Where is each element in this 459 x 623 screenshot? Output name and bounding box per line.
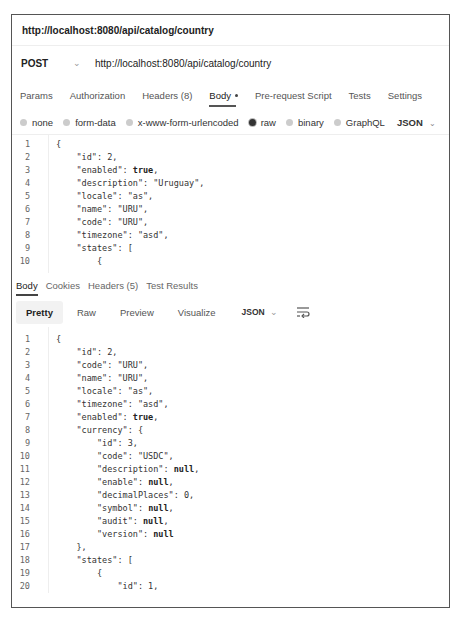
code-token: "code": "URU", bbox=[56, 360, 148, 370]
code-line: 2 "id": 2, bbox=[12, 346, 449, 359]
code-line: 9 "id": 3, bbox=[12, 437, 449, 450]
response-tab-test-results[interactable]: Test Results bbox=[146, 280, 198, 297]
code-text: "locale": "as", bbox=[40, 190, 153, 203]
tab-headers[interactable]: Headers (8) bbox=[142, 80, 192, 110]
body-format-select[interactable]: JSON⌄ bbox=[397, 117, 436, 128]
code-token: "name": "URU", bbox=[56, 373, 148, 383]
code-line: 7 "code": "URU", bbox=[12, 216, 449, 229]
line-number: 8 bbox=[12, 424, 40, 437]
code-token: "currency": { bbox=[56, 425, 143, 435]
code-text: "version": null bbox=[40, 528, 174, 541]
code-token: { bbox=[56, 256, 102, 266]
line-number: 20 bbox=[12, 580, 40, 593]
line-number: 13 bbox=[12, 489, 40, 502]
code-token: "description": bbox=[56, 464, 174, 474]
tab-authorization[interactable]: Authorization bbox=[70, 80, 125, 110]
radio-form-data[interactable]: form-data bbox=[63, 117, 116, 128]
method-select[interactable]: POST bbox=[21, 58, 73, 69]
line-number: 11 bbox=[12, 463, 40, 476]
code-line: 1{ bbox=[12, 138, 449, 151]
code-line: 9 "states": [ bbox=[12, 242, 449, 255]
tab-body[interactable]: Body bbox=[209, 80, 238, 110]
code-text: "code": "USDC", bbox=[40, 450, 174, 463]
code-line: 10 { bbox=[12, 255, 449, 268]
code-text: { bbox=[40, 567, 102, 580]
code-line: 8 "currency": { bbox=[12, 424, 449, 437]
view-visualize[interactable]: Visualize bbox=[168, 301, 226, 324]
code-line: 3 "code": "URU", bbox=[12, 359, 449, 372]
code-text: "id": 1, bbox=[40, 580, 158, 593]
code-token: "id": 2, bbox=[56, 347, 117, 357]
radio-graphql[interactable]: GraphQL bbox=[334, 117, 385, 128]
code-token: { bbox=[56, 139, 61, 149]
code-token: , bbox=[153, 412, 158, 422]
radio-selected-icon bbox=[249, 119, 256, 126]
tab-label: Headers (8) bbox=[142, 90, 192, 101]
radio-label: raw bbox=[261, 117, 276, 128]
radio-urlencoded[interactable]: x-www-form-urlencoded bbox=[126, 117, 239, 128]
view-preview[interactable]: Preview bbox=[110, 301, 164, 324]
chevron-down-icon[interactable]: ⌄ bbox=[73, 58, 95, 68]
radio-raw[interactable]: raw bbox=[249, 117, 276, 128]
code-line: 4 "description": "Uruguay", bbox=[12, 177, 449, 190]
code-text: "enable": null, bbox=[40, 476, 174, 489]
code-token: "states": [ bbox=[56, 243, 133, 253]
tab-tests[interactable]: Tests bbox=[349, 80, 371, 110]
code-line: 5 "locale": "as", bbox=[12, 190, 449, 203]
radio-none[interactable]: none bbox=[20, 117, 53, 128]
format-label: JSON bbox=[242, 307, 265, 317]
line-number: 12 bbox=[12, 476, 40, 489]
response-format-select[interactable]: JSON⌄ bbox=[234, 301, 286, 323]
code-line: 6 "name": "URU", bbox=[12, 203, 449, 216]
code-text: { bbox=[40, 138, 61, 151]
radio-label: binary bbox=[298, 117, 324, 128]
line-number: 3 bbox=[12, 359, 40, 372]
response-tab-headers[interactable]: Headers (5) bbox=[88, 280, 138, 297]
line-number: 2 bbox=[12, 151, 40, 164]
response-tab-cookies[interactable]: Cookies bbox=[46, 280, 80, 297]
tab-settings[interactable]: Settings bbox=[388, 80, 422, 110]
code-line: 10 "code": "USDC", bbox=[12, 450, 449, 463]
tab-params[interactable]: Params bbox=[20, 80, 53, 110]
code-token: "enabled": bbox=[56, 165, 133, 175]
code-token: "enabled": bbox=[56, 412, 133, 422]
code-line: 11 "description": null, bbox=[12, 463, 449, 476]
code-text: "timezone": "asd", bbox=[40, 229, 169, 242]
tab-label: Body bbox=[209, 90, 231, 101]
response-tab-body[interactable]: Body bbox=[16, 280, 38, 297]
line-number: 1 bbox=[12, 333, 40, 346]
line-number: 9 bbox=[12, 437, 40, 450]
code-token: "states": [ bbox=[56, 555, 133, 565]
line-number: 8 bbox=[12, 229, 40, 242]
code-line: 13 "decimalPlaces": 0, bbox=[12, 489, 449, 502]
code-token: "symbol": bbox=[56, 503, 148, 513]
wrap-lines-icon[interactable] bbox=[296, 306, 310, 318]
code-text: "code": "URU", bbox=[40, 359, 148, 372]
code-token: "timezone": "asd", bbox=[56, 399, 169, 409]
code-line: 1{ bbox=[12, 333, 449, 346]
code-token: { bbox=[56, 568, 102, 578]
line-number: 15 bbox=[12, 515, 40, 528]
request-body-editor[interactable]: 1{2 "id": 2,3 "enabled": true,4 "descrip… bbox=[12, 135, 449, 273]
code-text: "locale": "as", bbox=[40, 385, 153, 398]
view-raw[interactable]: Raw bbox=[67, 301, 106, 324]
tab-pre-request-script[interactable]: Pre-request Script bbox=[255, 80, 332, 110]
code-keyword: true bbox=[133, 412, 153, 422]
code-text: "currency": { bbox=[40, 424, 143, 437]
code-keyword: null bbox=[153, 529, 173, 539]
response-body-viewer[interactable]: 1{2 "id": 2,3 "code": "URU",4 "name": "U… bbox=[12, 327, 449, 593]
code-line: 15 "audit": null, bbox=[12, 515, 449, 528]
line-number: 5 bbox=[12, 385, 40, 398]
url-input[interactable]: http://localhost:8080/api/catalog/countr… bbox=[95, 58, 271, 69]
code-line: 18 "states": [ bbox=[12, 554, 449, 567]
code-token: { bbox=[56, 334, 61, 344]
radio-binary[interactable]: binary bbox=[286, 117, 324, 128]
code-keyword: null bbox=[174, 464, 194, 474]
view-pretty[interactable]: Pretty bbox=[16, 301, 63, 324]
code-line: 5 "locale": "as", bbox=[12, 385, 449, 398]
request-tab-title[interactable]: http://localhost:8080/api/catalog/countr… bbox=[12, 15, 449, 45]
code-text: "id": 2, bbox=[40, 151, 117, 164]
tab-label: Tests bbox=[349, 90, 371, 101]
code-line: 8 "timezone": "asd", bbox=[12, 229, 449, 242]
code-token: "enable": bbox=[56, 477, 148, 487]
